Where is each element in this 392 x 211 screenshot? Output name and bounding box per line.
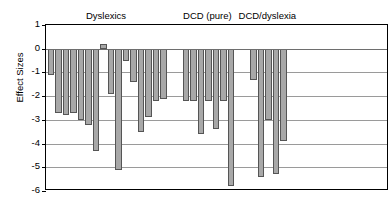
bar: [228, 49, 235, 187]
group-label-2: DCD (pure): [183, 8, 232, 24]
bar: [198, 49, 205, 134]
zero-reference-line: [46, 49, 387, 50]
bar: [138, 49, 145, 132]
y-tick-label: -2: [20, 90, 40, 100]
bar: [265, 49, 272, 120]
y-tick-label: -5: [20, 162, 40, 172]
bar: [123, 49, 130, 61]
group-label-row: DyslexicsDCD (pure)DCD/dyslexia: [45, 8, 388, 24]
y-tick-label: -1: [20, 67, 40, 77]
y-tick-label: -3: [20, 114, 40, 124]
group-label-1: Dyslexics: [86, 8, 126, 24]
bar: [205, 49, 212, 101]
group-label-3: DCD/dyslexia: [239, 8, 297, 24]
bar: [220, 49, 227, 101]
bar: [70, 49, 77, 113]
bar: [55, 49, 62, 113]
y-tick-label: 0: [20, 43, 40, 53]
bar: [130, 49, 137, 82]
bar: [153, 49, 160, 101]
y-axis-tick-labels: 10-1-2-3-4-5-6: [20, 0, 40, 211]
y-tick-mark: [42, 191, 46, 192]
bar: [160, 49, 167, 99]
y-tick-label: 1: [20, 19, 40, 29]
y-tick-label: -4: [20, 138, 40, 148]
bar: [145, 49, 152, 118]
bar: [190, 49, 197, 101]
bar: [250, 49, 257, 80]
effect-sizes-bar-chart: Effect Sizes 10-1-2-3-4-5-6 DyslexicsDCD…: [0, 0, 392, 211]
bar: [48, 49, 55, 75]
plot-area: [45, 24, 388, 190]
bar-series: [46, 25, 387, 189]
y-tick-label: -6: [20, 185, 40, 195]
bar: [115, 49, 122, 170]
bar: [280, 49, 287, 141]
bar: [85, 49, 92, 125]
bar: [93, 49, 100, 151]
bar: [63, 49, 70, 115]
bar: [183, 49, 190, 101]
bar: [108, 49, 115, 94]
bar: [273, 49, 280, 175]
bar: [78, 49, 85, 120]
bar: [258, 49, 265, 177]
bar: [213, 49, 220, 130]
